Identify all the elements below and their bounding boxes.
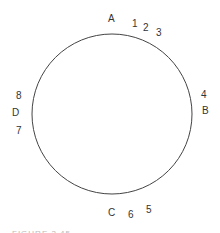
point-label-8: 8 [16,91,22,101]
point-label-5: 5 [146,205,152,215]
diagram-canvas [0,0,220,233]
point-label-7: 7 [16,126,22,136]
point-label-4: 4 [201,90,207,100]
point-label-1: 1 [132,19,138,29]
circle [32,34,192,194]
point-label-d: D [12,108,19,118]
point-label-6: 6 [128,210,134,220]
point-label-c: C [108,208,115,218]
point-label-2: 2 [143,23,149,33]
figure-caption: FIGURE 3.45 [12,229,71,233]
point-label-a: A [108,14,115,24]
point-label-b: B [202,106,209,116]
point-label-3: 3 [156,28,162,38]
